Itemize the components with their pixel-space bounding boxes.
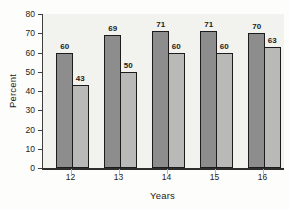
bar-value-label: 60 [60,42,69,51]
bar-value-label: 60 [220,42,229,51]
y-tick-mark [38,130,42,131]
x-tick-label: 13 [104,173,134,182]
category-tick-mark [263,169,264,174]
bar-value-label: 43 [76,74,85,83]
y-tick-label: 70 [0,29,35,38]
y-tick-label: 40 [0,87,35,96]
category-tick-mark [71,169,72,174]
y-tick-label: 0 [0,164,35,173]
y-tick-mark [38,53,42,54]
x-tick-label: 15 [200,173,230,182]
y-tick-label: 20 [0,125,35,134]
y-tick-mark [38,14,42,15]
bar-value-label: 50 [124,61,133,70]
category-tick-mark [167,169,168,174]
bar [72,85,89,168]
bar [168,53,185,169]
category-tick-mark [119,169,120,174]
bar-value-label: 63 [268,36,277,45]
x-axis-title: Years [42,190,283,201]
bar [104,35,121,168]
y-tick-label: 50 [0,68,35,77]
bar-chart: Percent 60436950716071607063 Years 01020… [0,0,290,210]
category-tick-mark [215,169,216,174]
y-tick-mark [38,110,42,111]
x-tick-label: 16 [248,173,278,182]
y-tick-label: 60 [0,48,35,57]
bar-value-label: 71 [204,20,213,29]
bar [200,31,217,168]
bar-value-label: 60 [172,42,181,51]
y-tick-mark [38,149,42,150]
y-tick-label: 10 [0,145,35,154]
bar [248,33,265,168]
bar-value-label: 69 [108,24,117,33]
bar [216,53,233,169]
bar [56,53,73,169]
x-tick-label: 14 [152,173,182,182]
plot-area: 60436950716071607063 [42,14,284,170]
bar-value-label: 70 [252,22,261,31]
y-tick-mark [38,33,42,34]
bar [120,72,137,168]
y-tick-label: 80 [0,10,35,19]
bar-value-label: 71 [156,20,165,29]
bar [264,47,281,168]
y-tick-mark [38,168,42,169]
x-tick-label: 12 [56,173,86,182]
y-tick-mark [38,91,42,92]
y-tick-label: 30 [0,106,35,115]
y-tick-mark [38,72,42,73]
bar [152,31,169,168]
